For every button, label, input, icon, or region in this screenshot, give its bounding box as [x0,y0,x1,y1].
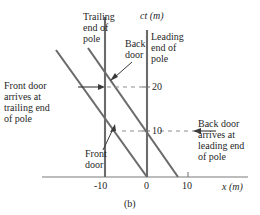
label-front-door-arrival-event: Front door arrives at trailing end of po… [4,80,78,124]
x-axis-title: x (m) [222,181,243,192]
panel-label: (b) [124,198,136,209]
label-back-door: Back door [125,38,155,60]
x-tick-label-10: 10 [182,180,192,191]
label-back-door-arrival-event: Back door arrives at leading end of pole [198,118,258,162]
label-front-door: Front door [85,148,117,170]
x-tick-label-zero: 0 [144,180,149,191]
y-tick-label-10: 10 [152,125,162,136]
pointer-back-door-shaft [115,62,132,77]
pointer-back-door-arrowhead [110,73,118,81]
spacetime-diagram-figure: Trailing end of pole Leading end of pole… [0,0,260,215]
x-tick-label-minus10: -10 [94,180,107,191]
label-leading-end-of-pole: Leading end of pole [151,31,203,64]
y-tick-label-20: 20 [152,81,162,92]
ct-axis-title: ct (m) [140,10,164,21]
